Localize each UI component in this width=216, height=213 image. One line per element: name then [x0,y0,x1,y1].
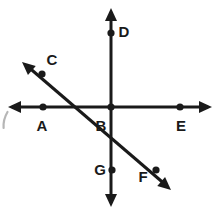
point-label-d: D [119,23,130,40]
point-label-c: C [47,51,58,68]
geometry-figure: A B C D E F G [0,0,216,213]
point-label-a: A [37,117,48,134]
point-dot-e [176,103,183,110]
point-dot-b [107,103,114,110]
point-dot-a [39,103,46,110]
point-label-e: E [176,117,186,134]
geometry-canvas: A B C D E F G [0,0,216,213]
point-label-b: B [96,117,107,134]
point-label-g: G [94,161,106,178]
point-label-f: F [138,168,147,185]
point-dot-c [38,70,45,77]
point-dot-f [152,166,159,173]
point-dot-g [108,166,115,173]
point-dot-d [107,29,114,36]
